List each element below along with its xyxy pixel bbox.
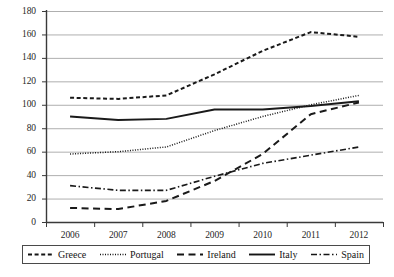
solid-line-swatch: [249, 250, 275, 259]
x-axis-tick-label: 2010: [239, 231, 287, 241]
y-axis-tick-label: 140: [0, 53, 36, 63]
chart-legend: GreecePortugalIrelandItalySpain: [22, 245, 370, 264]
y-axis-tick-label: 180: [0, 7, 36, 17]
chart-plot-area: 0204060801001201401601802006200720082009…: [0, 0, 394, 240]
dashed-line-swatch: [28, 250, 54, 259]
dotted-line-swatch: [100, 250, 126, 259]
x-axis-tick-label: 2006: [46, 231, 94, 241]
legend-label: Spain: [341, 250, 364, 260]
series-line-italy: [70, 101, 359, 120]
legend-label: Greece: [58, 250, 86, 260]
legend-item-italy[interactable]: Italy: [249, 250, 297, 260]
x-axis-tick-label: 2007: [94, 231, 142, 241]
y-axis-tick-label: 160: [0, 30, 36, 40]
series-line-greece: [70, 32, 359, 99]
legend-item-portugal[interactable]: Portugal: [100, 250, 164, 260]
x-axis-tick-label: 2008: [142, 231, 190, 241]
y-axis-tick-label: 120: [0, 77, 36, 87]
y-axis-tick-label: 100: [0, 100, 36, 110]
series-line-spain: [70, 147, 359, 190]
legend-item-spain[interactable]: Spain: [311, 250, 364, 260]
legend-label: Portugal: [130, 250, 164, 260]
y-axis-tick-label: 80: [0, 124, 36, 134]
legend-item-ireland[interactable]: Ireland: [177, 250, 235, 260]
legend-item-greece[interactable]: Greece: [28, 250, 86, 260]
y-axis-tick-label: 20: [0, 194, 36, 204]
x-axis-tick-label: 2011: [287, 231, 335, 241]
line-chart-svg: [0, 0, 394, 240]
dash-dot-line-swatch: [311, 250, 337, 259]
legend-label: Ireland: [207, 250, 235, 260]
long-dashed-line-swatch: [177, 250, 203, 259]
y-axis-tick-label: 60: [0, 147, 36, 157]
y-axis-tick-label: 0: [0, 218, 36, 228]
x-axis-tick-label: 2012: [335, 231, 383, 241]
y-axis-tick-label: 40: [0, 171, 36, 181]
x-axis-tick-label: 2009: [190, 231, 238, 241]
series-line-portugal: [70, 95, 359, 154]
figure: 0204060801001201401601802006200720082009…: [0, 0, 394, 277]
series-line-ireland: [70, 102, 359, 209]
legend-label: Italy: [279, 250, 297, 260]
